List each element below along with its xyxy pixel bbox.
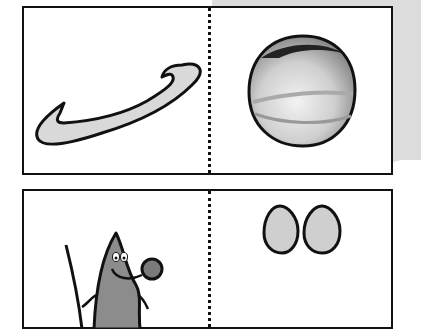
picture-card-2 [22,189,393,329]
picture-card-1 [22,6,393,175]
ring-picture [32,53,212,163]
card-divider [208,191,211,327]
eggs-picture [262,203,346,255]
mouse-picture [60,229,170,329]
planet-picture [243,32,363,152]
